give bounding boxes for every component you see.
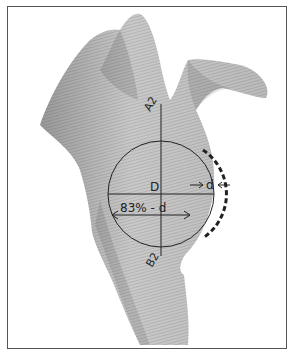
- glenoid-diagram: A2 B2 D d 83% - d: [0, 0, 295, 357]
- label-width-formula: 83% - d: [120, 201, 166, 215]
- label-diameter: D: [150, 180, 159, 194]
- label-defect: d: [206, 178, 214, 192]
